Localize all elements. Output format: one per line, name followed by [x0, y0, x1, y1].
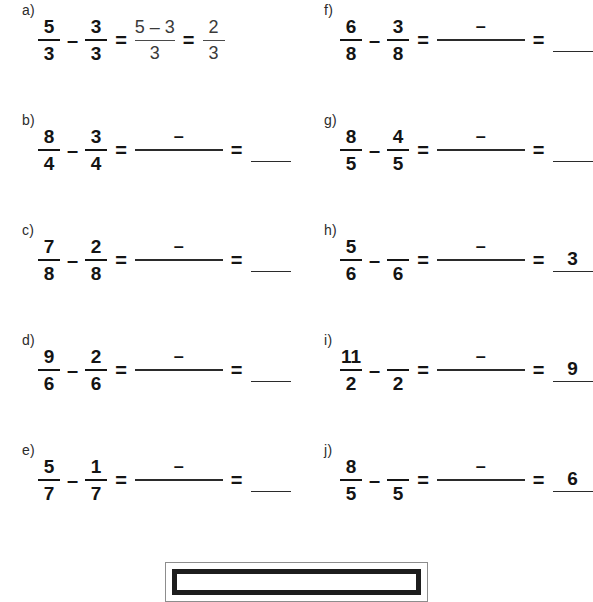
middle-fraction-numerator[interactable]: –	[172, 236, 186, 257]
result-answer-line	[251, 491, 291, 493]
first-fraction: 84	[38, 126, 60, 174]
result-answer-blank[interactable]	[251, 138, 291, 163]
second-fraction[interactable]: 2	[387, 346, 409, 394]
middle-fraction-denominator[interactable]	[172, 373, 186, 394]
middle-fraction-denominator[interactable]	[474, 43, 488, 64]
middle-fraction-bar	[437, 479, 525, 481]
second-fraction-denominator: 5	[391, 153, 405, 174]
second-fraction-denominator: 6	[89, 373, 103, 394]
equals-sign-2: =	[533, 470, 545, 490]
minus-operator: –	[369, 470, 380, 490]
middle-fraction-numerator[interactable]: –	[172, 126, 186, 147]
result-numerator[interactable]	[264, 248, 278, 269]
second-fraction: 34	[85, 126, 107, 174]
problem-label: d)	[22, 332, 35, 348]
middle-fraction-numerator[interactable]: –	[474, 236, 488, 257]
middle-fraction[interactable]: –	[437, 126, 525, 174]
middle-fraction-denominator[interactable]	[474, 483, 488, 504]
middle-fraction-bar	[135, 149, 223, 151]
first-fraction-numerator: 5	[42, 456, 56, 477]
first-fraction-denominator: 2	[344, 373, 358, 394]
middle-fraction[interactable]: –	[135, 346, 223, 394]
first-fraction-denominator: 6	[344, 263, 358, 284]
problem-c: c)78–28=–=	[0, 220, 295, 330]
middle-fraction-denominator[interactable]	[172, 153, 186, 174]
problem-expression: 78–28=–=	[38, 234, 291, 286]
second-fraction-numerator: 3	[89, 126, 103, 147]
second-fraction-numerator[interactable]	[391, 346, 405, 367]
middle-fraction[interactable]: –	[135, 236, 223, 284]
result-answer-blank[interactable]	[251, 468, 291, 493]
first-fraction-denominator: 4	[42, 153, 56, 174]
result-numerator[interactable]: 3	[566, 248, 580, 269]
result-fraction-denominator: 3	[207, 43, 221, 64]
result-fraction: 23	[203, 17, 225, 64]
middle-fraction-denominator[interactable]	[474, 153, 488, 174]
problem-expression: 57–17=–=	[38, 454, 291, 506]
middle-fraction-numerator[interactable]: –	[474, 16, 488, 37]
second-fraction-denominator[interactable]: 5	[391, 483, 405, 504]
result-numerator[interactable]: 6	[566, 468, 580, 489]
problem-g: g)85–45=–=	[296, 110, 591, 220]
second-fraction: 26	[85, 346, 107, 394]
middle-fraction-numerator[interactable]: –	[474, 456, 488, 477]
second-fraction-numerator[interactable]	[391, 236, 405, 257]
second-fraction-numerator[interactable]	[391, 456, 405, 477]
middle-fraction[interactable]: –	[135, 456, 223, 504]
middle-fraction-numerator[interactable]: –	[474, 346, 488, 367]
second-fraction[interactable]: 5	[387, 456, 409, 504]
result-answer-blank[interactable]	[553, 138, 593, 163]
result-numerator[interactable]	[264, 358, 278, 379]
middle-fraction-denominator[interactable]	[474, 373, 488, 394]
result-answer-blank[interactable]: 3	[553, 248, 593, 273]
second-fraction: 17	[85, 456, 107, 504]
middle-fraction[interactable]: –	[437, 236, 525, 284]
first-fraction-bar	[340, 149, 362, 151]
middle-fraction-numerator[interactable]: –	[474, 126, 488, 147]
result-answer-blank[interactable]	[553, 28, 593, 53]
equals-sign-1: =	[115, 250, 127, 270]
second-fraction-bar	[387, 479, 409, 481]
second-fraction-bar	[387, 259, 409, 261]
middle-fraction[interactable]: –	[437, 346, 525, 394]
first-fraction-numerator: 11	[341, 346, 361, 367]
second-fraction-numerator: 2	[89, 346, 103, 367]
result-numerator[interactable]: 9	[566, 358, 580, 379]
middle-fraction[interactable]: –	[135, 126, 223, 174]
result-answer-blank[interactable]: 6	[553, 468, 593, 493]
first-fraction-numerator: 7	[42, 236, 56, 257]
middle-fraction[interactable]: –	[437, 16, 525, 64]
middle-fraction-denominator[interactable]	[172, 483, 186, 504]
second-fraction-denominator[interactable]: 6	[391, 263, 405, 284]
middle-fraction-denominator[interactable]	[172, 263, 186, 284]
first-fraction-numerator: 8	[344, 456, 358, 477]
second-fraction[interactable]: 6	[387, 236, 409, 284]
middle-fraction[interactable]: –	[437, 456, 525, 504]
result-numerator[interactable]	[264, 138, 278, 159]
second-fraction: 33	[85, 16, 107, 64]
equals-sign-2: =	[183, 30, 195, 50]
second-fraction: 45	[387, 126, 409, 174]
result-answer-blank[interactable]	[251, 358, 291, 383]
equals-sign-2: =	[533, 360, 545, 380]
first-fraction-bar	[340, 39, 362, 41]
minus-operator: –	[67, 140, 78, 160]
middle-fraction-denominator[interactable]	[474, 263, 488, 284]
middle-fraction-numerator[interactable]: –	[172, 346, 186, 367]
second-fraction-numerator: 3	[391, 16, 405, 37]
equals-sign-1: =	[417, 250, 429, 270]
result-answer-line	[251, 161, 291, 163]
first-fraction-numerator: 8	[42, 126, 56, 147]
result-answer-blank[interactable]: 9	[553, 358, 593, 383]
result-numerator[interactable]	[566, 138, 580, 159]
result-answer-blank[interactable]	[251, 248, 291, 273]
first-fraction: 57	[38, 456, 60, 504]
middle-fraction-numerator[interactable]: –	[172, 456, 186, 477]
minus-operator: –	[369, 250, 380, 270]
second-fraction-denominator: 8	[89, 263, 103, 284]
result-numerator[interactable]	[264, 468, 278, 489]
second-fraction-denominator[interactable]: 2	[391, 373, 405, 394]
result-numerator[interactable]	[566, 28, 580, 49]
problem-e: e)57–17=–=	[0, 440, 295, 550]
